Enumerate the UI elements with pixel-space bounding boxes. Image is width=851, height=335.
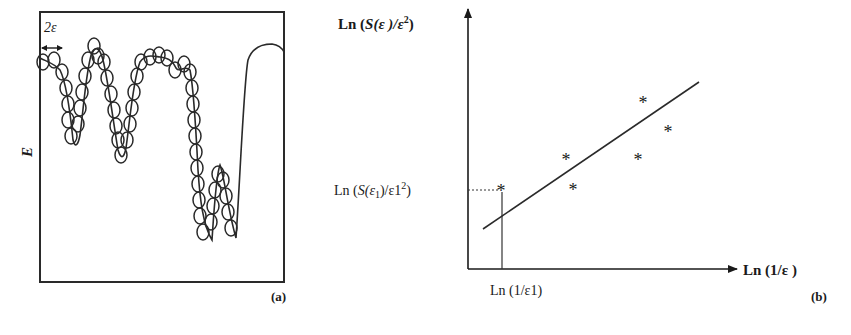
- figure-canvas: E 2ε: [0, 0, 851, 335]
- data-point: *: [634, 150, 643, 170]
- panel-a: E 2ε: [19, 12, 286, 304]
- data-points: * * * * * *: [497, 93, 673, 201]
- cropped-caption-sliver: [0, 330, 851, 335]
- panel-b: Ln (S(ε )/ε2) Ln (1/ε ) Ln (S(ε1)/ε12) L…: [334, 9, 827, 304]
- data-point: *: [497, 181, 506, 201]
- circle-chain: [37, 38, 237, 240]
- x-tick-label: Ln (1/ε1): [490, 283, 542, 299]
- panel-a-label: (a): [271, 289, 286, 304]
- data-point: *: [562, 150, 571, 170]
- y-tick-label: Ln (S(ε1)/ε12): [334, 180, 411, 200]
- epsilon-marker-label: 2ε: [44, 20, 57, 35]
- data-point: *: [569, 180, 578, 200]
- data-point: *: [639, 93, 648, 113]
- y-axis-label: Ln (S(ε )/ε2): [338, 14, 414, 33]
- panel-a-y-axis-label: E: [19, 147, 35, 158]
- regression-line: [483, 82, 699, 229]
- data-point: *: [664, 122, 673, 142]
- x-axis-label: Ln (1/ε ): [743, 262, 797, 279]
- energy-curve: [40, 44, 284, 240]
- panel-b-label: (b): [811, 289, 827, 304]
